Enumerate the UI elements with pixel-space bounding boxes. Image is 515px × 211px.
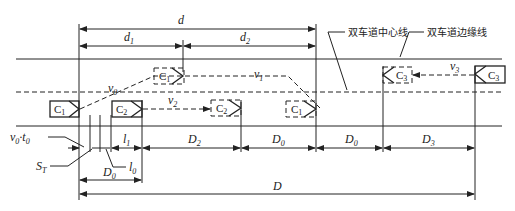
svg-text:C1: C1 [159, 70, 170, 84]
label-d2: d2 [240, 30, 250, 46]
label-d: d [178, 13, 185, 27]
car-c2-end: C2 [211, 100, 241, 116]
svg-text:C2: C2 [116, 103, 127, 117]
label-v1: v1 [254, 67, 263, 83]
label-D2: D2 [187, 132, 201, 148]
svg-text:C3: C3 [396, 69, 407, 83]
label-centerline: 双车道中心线 [348, 26, 408, 38]
label-D0c: D0 [344, 132, 358, 148]
centerline-leader [328, 32, 347, 90]
svg-text:C1: C1 [291, 103, 302, 117]
label-edgeline: 双车道边缘线 [427, 26, 487, 38]
car-c1-start: C1 [50, 101, 79, 117]
st-leader [50, 149, 92, 166]
label-l0: l0 [129, 160, 136, 176]
svg-text:C3: C3 [488, 69, 499, 83]
car-c1-end: C1 [286, 101, 316, 117]
label-v0: v0 [108, 81, 117, 97]
car-c3-start: C3 [475, 66, 505, 83]
label-D3: D3 [421, 132, 435, 148]
svg-text:C2: C2 [216, 102, 227, 116]
label-v0t0: v0·t0 [10, 130, 30, 146]
label-D0b: D0 [271, 132, 285, 148]
label-ST: ST [36, 159, 47, 175]
overtaking-sight-distance-diagram: d d1 d2 双车道中心线 双车道边缘线 C1 v0 v1 C1 C1 C2 … [0, 0, 515, 211]
label-v2: v2 [168, 93, 177, 109]
label-l1: l1 [123, 132, 130, 148]
label-v3: v3 [450, 59, 459, 75]
label-D: D [272, 179, 282, 193]
car-c3-end: C3 [383, 67, 412, 83]
svg-text:C1: C1 [54, 103, 65, 117]
car-c2-start: C2 [112, 101, 142, 117]
label-d1: d1 [124, 30, 134, 46]
